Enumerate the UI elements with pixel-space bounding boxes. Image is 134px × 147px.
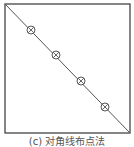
diagonal-sampling-diagram: [0, 0, 134, 136]
figure-caption: (c) 对角线布点法: [0, 136, 134, 147]
diagonal-line: [5, 4, 130, 133]
